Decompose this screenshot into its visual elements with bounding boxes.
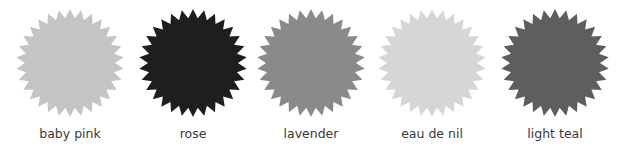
starburst-icon [501, 9, 609, 117]
starburst-icon [378, 9, 486, 117]
swatch-rose: rose [133, 0, 253, 155]
swatch-label: rose [133, 126, 253, 141]
swatch-eau-de-nil: eau de nil [372, 0, 492, 155]
swatch-label: baby pink [10, 126, 130, 141]
swatch-lavender: lavender [251, 0, 371, 155]
swatch-light-teal: light teal [495, 0, 615, 155]
swatch-label: eau de nil [372, 126, 492, 141]
starburst-icon [16, 9, 124, 117]
swatch-baby-pink: baby pink [10, 0, 130, 155]
starburst-icon [257, 9, 365, 117]
swatch-label: light teal [495, 126, 615, 141]
swatch-label: lavender [251, 126, 371, 141]
starburst-icon [139, 9, 247, 117]
